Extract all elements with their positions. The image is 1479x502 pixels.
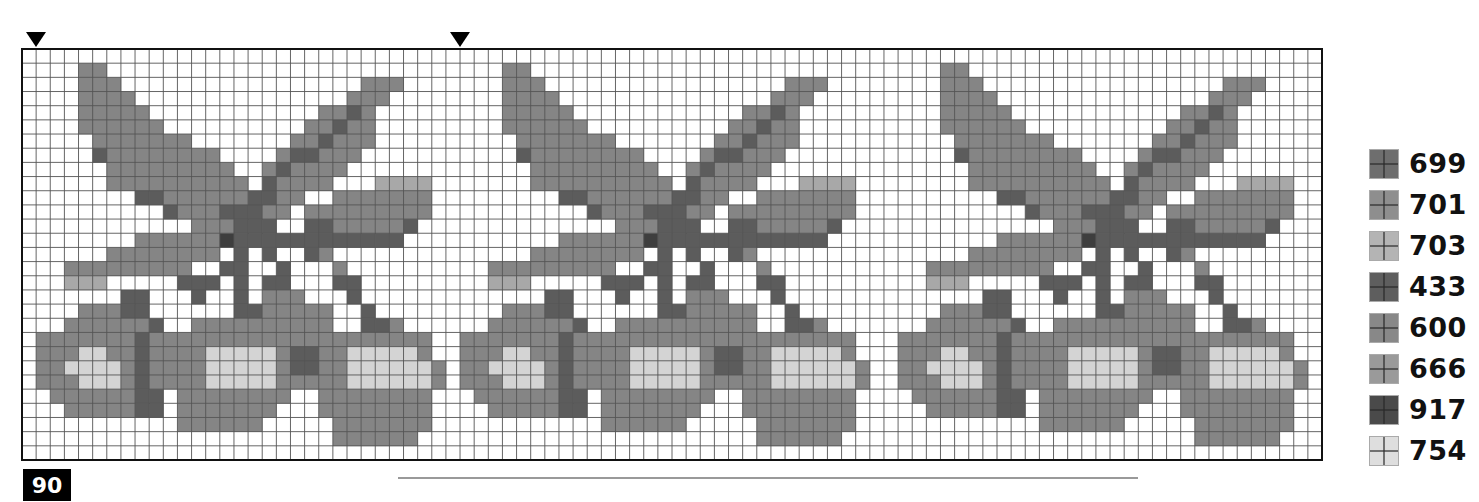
- legend-item: 699: [1369, 143, 1467, 184]
- legend-item: 701: [1369, 184, 1467, 225]
- legend-code: 433: [1409, 271, 1467, 302]
- legend-item: 600: [1369, 307, 1467, 348]
- swatch-917: [1369, 395, 1399, 425]
- legend-code: 600: [1409, 312, 1467, 343]
- legend-item: 666: [1369, 348, 1467, 389]
- cross-stitch-chart-grid: [0, 0, 1479, 502]
- swatch-701: [1369, 190, 1399, 220]
- footer-rule: [398, 477, 1138, 479]
- legend-code: 666: [1409, 353, 1467, 384]
- legend-item: 754: [1369, 430, 1467, 471]
- legend-code: 917: [1409, 394, 1467, 425]
- swatch-666: [1369, 354, 1399, 384]
- color-key-legend: 699 701 703 433 600 666 917 754: [1369, 143, 1467, 471]
- swatch-699: [1369, 149, 1399, 179]
- legend-code: 754: [1409, 435, 1467, 466]
- swatch-754: [1369, 436, 1399, 466]
- legend-item: 433: [1369, 266, 1467, 307]
- legend-code: 699: [1409, 148, 1467, 179]
- legend-item: 703: [1369, 225, 1467, 266]
- swatch-433: [1369, 272, 1399, 302]
- page-number-badge: 90: [23, 469, 71, 501]
- legend-code: 703: [1409, 230, 1467, 261]
- swatch-703: [1369, 231, 1399, 261]
- swatch-600: [1369, 313, 1399, 343]
- legend-code: 701: [1409, 189, 1467, 220]
- legend-item: 917: [1369, 389, 1467, 430]
